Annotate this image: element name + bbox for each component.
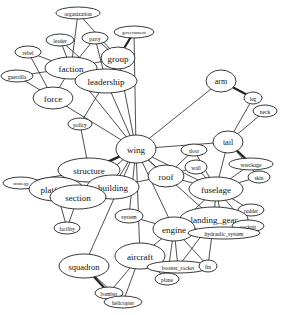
node-label: organization xyxy=(64,11,92,17)
node-label: government xyxy=(122,30,146,35)
node-label: bomber xyxy=(101,291,118,297)
network-diagram: organizationpartyleadergovernmentrebelgr… xyxy=(0,0,282,315)
node-label: policy xyxy=(73,122,87,128)
node-roof[interactable]: roof xyxy=(148,165,184,187)
node-label: rebel xyxy=(23,50,34,56)
node-party[interactable]: party xyxy=(82,32,108,44)
edge-wing-aircraft xyxy=(136,149,140,256)
node-label: leadership xyxy=(88,77,125,87)
node-label: fin xyxy=(205,264,211,270)
node-label: fuselage xyxy=(201,185,231,195)
node-label: landing_gear xyxy=(191,215,238,225)
node-label: section xyxy=(65,193,91,203)
node-squadron[interactable]: squadron xyxy=(59,254,109,278)
node-label: booster_rocket xyxy=(162,265,195,271)
node-neck[interactable]: neck xyxy=(253,105,277,117)
node-label: wing xyxy=(127,145,146,155)
node-label: faction xyxy=(59,64,84,74)
node-facility[interactable]: facility xyxy=(54,222,80,234)
node-label: group xyxy=(108,54,129,64)
node-force[interactable]: force xyxy=(33,87,73,109)
node-label: party xyxy=(89,36,101,42)
node-label: squadron xyxy=(68,262,100,272)
node-government[interactable]: government xyxy=(114,26,154,38)
node-label: system xyxy=(121,214,137,220)
node-layer: organizationpartyleadergovernmentrebelgr… xyxy=(1,7,277,308)
node-label: facility xyxy=(59,226,75,232)
node-rebel[interactable]: rebel xyxy=(15,46,41,58)
node-skin[interactable]: skin xyxy=(248,171,270,183)
node-label: structure xyxy=(73,166,105,176)
node-label: guerrilla xyxy=(8,74,27,80)
node-label: wall xyxy=(191,165,201,171)
node-label: wreckage xyxy=(240,162,262,168)
node-tail[interactable]: tail xyxy=(213,131,243,153)
node-label: force xyxy=(44,94,62,104)
node-arm[interactable]: arm xyxy=(206,70,236,92)
node-label: helicopter xyxy=(112,300,134,306)
edge-government-wing xyxy=(134,32,136,149)
node-label: roof xyxy=(159,172,174,182)
node-wall[interactable]: wall xyxy=(185,160,207,174)
node-label: neck xyxy=(260,109,271,115)
node-wing[interactable]: wing xyxy=(116,135,156,163)
node-label: plane xyxy=(161,277,173,283)
node-leadership[interactable]: leadership xyxy=(75,69,137,93)
node-system[interactable]: system xyxy=(115,209,143,223)
node-label: strategy xyxy=(13,181,29,186)
node-door[interactable]: door xyxy=(181,144,207,156)
node-label: engine xyxy=(162,225,186,235)
node-hydraulic_system[interactable]: hydraulic_system xyxy=(188,227,260,239)
node-group[interactable]: group xyxy=(101,47,135,69)
node-guerrilla[interactable]: guerrilla xyxy=(1,70,33,82)
node-label: leg xyxy=(250,96,257,102)
node-fuselage[interactable]: fuselage xyxy=(189,177,243,201)
node-label: leader xyxy=(53,38,67,44)
node-label: aircraft xyxy=(127,252,153,262)
node-label: skin xyxy=(254,175,263,181)
node-fin[interactable]: fin xyxy=(199,260,217,272)
node-label: tail xyxy=(223,138,234,147)
node-engine[interactable]: engine xyxy=(153,217,195,241)
node-plane[interactable]: plane xyxy=(155,273,179,285)
node-organization[interactable]: organization xyxy=(56,7,100,19)
node-label: hydraulic_system xyxy=(205,231,245,237)
node-label: rudder xyxy=(244,208,259,214)
node-leader[interactable]: leader xyxy=(46,34,74,46)
node-label: door xyxy=(189,148,199,154)
node-helicopter[interactable]: helicopter xyxy=(104,296,142,308)
node-label: arm xyxy=(215,77,228,86)
node-leg[interactable]: leg xyxy=(244,92,262,104)
node-policy[interactable]: policy xyxy=(68,118,92,130)
node-wreckage[interactable]: wreckage xyxy=(229,158,273,170)
node-section[interactable]: section xyxy=(50,185,106,209)
